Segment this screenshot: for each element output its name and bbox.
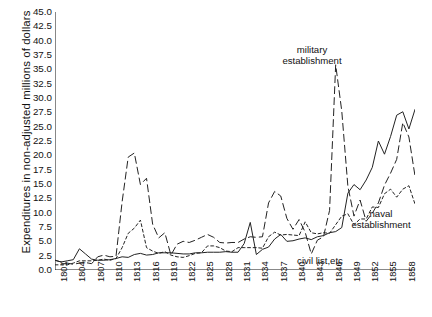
y-tick-label: 32.5 — [18, 79, 52, 89]
naval-annotation: naval establishment — [351, 208, 410, 230]
x-tick-label: 1804 — [77, 261, 87, 282]
x-tick-label: 1807 — [96, 261, 106, 282]
x-tick-label: 1852 — [370, 261, 380, 282]
x-tick-label: 1828 — [224, 261, 234, 282]
y-tick-label: 20.0 — [18, 150, 52, 160]
x-tick-label: 1855 — [388, 261, 398, 282]
y-tick-label: 7.5 — [18, 222, 52, 232]
x-tick-label: 1834 — [260, 261, 270, 282]
y-axis-tick-labels: 0.02.55.07.510.012.515.017.520.022.525.0… — [12, 0, 52, 282]
y-tick-label: 45.0 — [18, 7, 52, 17]
x-tick-label: 1858 — [407, 261, 417, 282]
military-annotation-line1: military — [282, 44, 341, 55]
y-tick-label: 22.5 — [18, 136, 52, 146]
series-line-civil-list-etc — [55, 109, 415, 262]
y-tick-label: 15.0 — [18, 179, 52, 189]
x-tick-label: 1825 — [205, 261, 215, 282]
expenditures-line-chart: Expenditures in non-adjusted millions of… — [0, 0, 432, 317]
y-tick-label: 37.5 — [18, 50, 52, 60]
plot-svg — [55, 12, 415, 270]
x-tick-label: 1810 — [114, 261, 124, 282]
civil-annotation: civil list,etc — [297, 255, 343, 266]
naval-annotation-line2: establishment — [351, 219, 410, 230]
x-tick-label: 1819 — [169, 261, 179, 282]
y-tick-label: 35.0 — [18, 64, 52, 74]
x-tick-label: 1816 — [151, 261, 161, 282]
x-tick-label: 1837 — [279, 261, 289, 282]
y-tick-label: 17.5 — [18, 165, 52, 175]
x-axis-tick-labels: 1801180418071810181318161819182218251828… — [0, 274, 432, 317]
naval-annotation-line1: naval — [351, 208, 410, 219]
y-tick-label: 30.0 — [18, 93, 52, 103]
y-tick-label: 10.0 — [18, 208, 52, 218]
y-tick-label: 27.5 — [18, 107, 52, 117]
x-tick-label: 1813 — [132, 261, 142, 282]
y-tick-label: 2.5 — [18, 251, 52, 261]
military-annotation-line2: establishment — [282, 55, 341, 66]
y-tick-label: 5.0 — [18, 236, 52, 246]
y-tick-label: 12.5 — [18, 193, 52, 203]
y-tick-label: 42.5 — [18, 21, 52, 31]
series-line-military-establishment — [55, 65, 415, 265]
x-tick-label: 1801 — [59, 261, 69, 282]
plot-area — [55, 12, 415, 270]
x-tick-label: 1831 — [242, 261, 252, 282]
military-annotation: military establishment — [282, 44, 341, 66]
x-tick-label: 1822 — [187, 261, 197, 282]
x-tick-label: 1849 — [352, 261, 362, 282]
y-tick-label: 40.0 — [18, 36, 52, 46]
y-tick-label: 25.0 — [18, 122, 52, 132]
